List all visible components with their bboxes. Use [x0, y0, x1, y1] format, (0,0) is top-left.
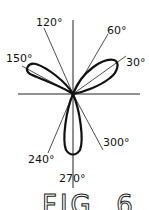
figure-caption: FIG. 6	[42, 190, 136, 210]
ray-120	[44, 28, 73, 94]
label-300: 300°	[103, 136, 130, 149]
label-240: 240°	[28, 153, 55, 166]
label-270: 270°	[59, 172, 86, 185]
label-120: 120°	[36, 16, 63, 29]
polar-rose-diagram: 120° 60° 150° 30° 240° 300° 270° FIG. 6	[0, 0, 149, 210]
ray-30	[73, 56, 126, 94]
label-30: 30°	[126, 56, 146, 69]
label-150: 150°	[6, 52, 33, 65]
label-60: 60°	[107, 24, 127, 37]
ray-300	[73, 94, 103, 150]
